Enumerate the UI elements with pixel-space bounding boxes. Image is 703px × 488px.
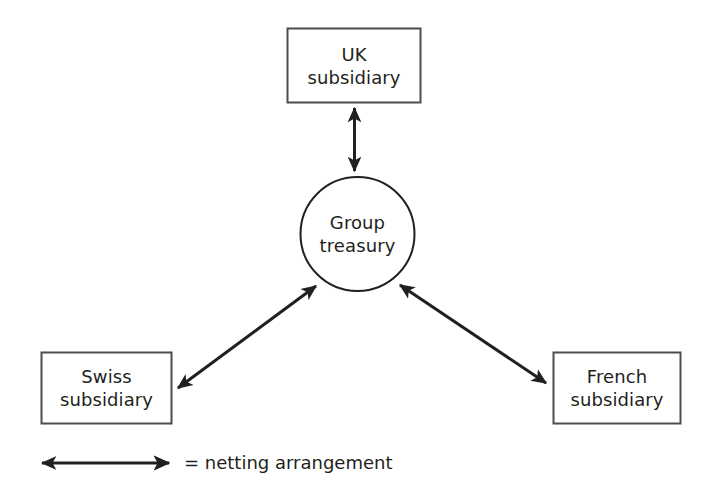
node-box-french-subsidiary: [554, 353, 681, 424]
node-box-uk-subsidiary: [288, 29, 421, 103]
diagram-canvas: UK subsidiary Group treasury Swiss subsi…: [0, 0, 703, 488]
node-circle-group-treasury: [301, 177, 415, 291]
diagram-graphic: [0, 0, 703, 488]
node-box-swiss-subsidiary: [42, 353, 172, 424]
connector-french-treasury: [400, 285, 546, 383]
connector-swiss-treasury: [178, 286, 316, 388]
legend-label: = netting arrangement: [184, 451, 393, 475]
